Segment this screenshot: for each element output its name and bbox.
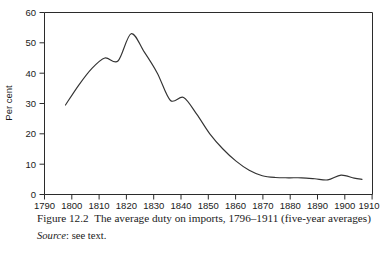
x-tick-1910: 1910 [358,195,379,212]
source-separator: : [66,230,69,241]
y-axis-title: Per cent [3,85,14,121]
x-tick-1860: 1860 [225,195,246,212]
y-tick-60: 60 [25,7,44,18]
chart-plot-area: Per cent 60 50 [0,0,380,212]
figure-caption: Figure 12.2 The average duty on imports,… [37,212,373,225]
x-axis-ticks: 1790 1800 1810 1820 1830 [34,195,380,212]
x-tick-label: 1910 [358,200,379,211]
y-tick-10: 10 [25,159,44,170]
y-tick-label: 10 [25,159,36,170]
y-tick-label: 20 [25,128,36,139]
x-tick-1800: 1800 [61,195,82,212]
x-tick-label: 1820 [116,200,137,211]
figure-caption-text: The average duty on imports, 1796–1911 (… [94,212,371,224]
y-tick-30: 30 [25,98,44,109]
y-tick-50: 50 [25,37,44,48]
figure-container: Per cent 60 50 [0,0,380,259]
source-line: Source: see text. [37,230,373,242]
x-tick-1820: 1820 [116,195,137,212]
x-tick-label: 1900 [334,200,355,211]
x-tick-1840: 1840 [170,195,191,212]
x-tick-label: 1880 [280,200,301,211]
x-tick-label: 1860 [225,200,246,211]
x-tick-label: 1790 [34,200,55,211]
x-tick-1790: 1790 [34,195,55,212]
x-tick-label: 1840 [170,200,191,211]
x-tick-label: 1830 [143,200,164,211]
y-tick-label: 60 [25,7,36,18]
y-axis-title-text: Per cent [3,85,14,121]
x-tick-label: 1850 [198,200,219,211]
y-tick-label: 50 [25,37,36,48]
line-chart-svg: Per cent 60 50 [0,0,380,212]
x-tick-label: 1810 [89,200,110,211]
x-tick-1900: 1900 [334,195,355,212]
y-tick-label: 0 [31,189,36,200]
source-label: Source [37,230,66,241]
y-tick-0: 0 [31,189,45,200]
y-axis-ticks: 60 50 40 30 20 [25,7,44,200]
data-series-line [65,34,362,180]
x-tick-1830: 1830 [143,195,164,212]
caption-block: Figure 12.2 The average duty on imports,… [37,212,373,242]
x-tick-label: 1800 [61,200,82,211]
x-tick-1870: 1870 [252,195,273,212]
source-text: see text. [72,230,107,241]
x-tick-1850: 1850 [198,195,219,212]
plot-frame [45,13,373,195]
y-tick-40: 40 [25,68,44,79]
y-tick-20: 20 [25,128,44,139]
x-tick-label: 1870 [252,200,273,211]
x-tick-1810: 1810 [89,195,110,212]
figure-caption-label: Figure 12.2 [37,212,89,224]
x-tick-1880: 1880 [280,195,301,212]
y-tick-label: 30 [25,98,36,109]
x-tick-1890: 1890 [307,195,328,212]
x-tick-label: 1890 [307,200,328,211]
y-tick-label: 40 [25,68,36,79]
